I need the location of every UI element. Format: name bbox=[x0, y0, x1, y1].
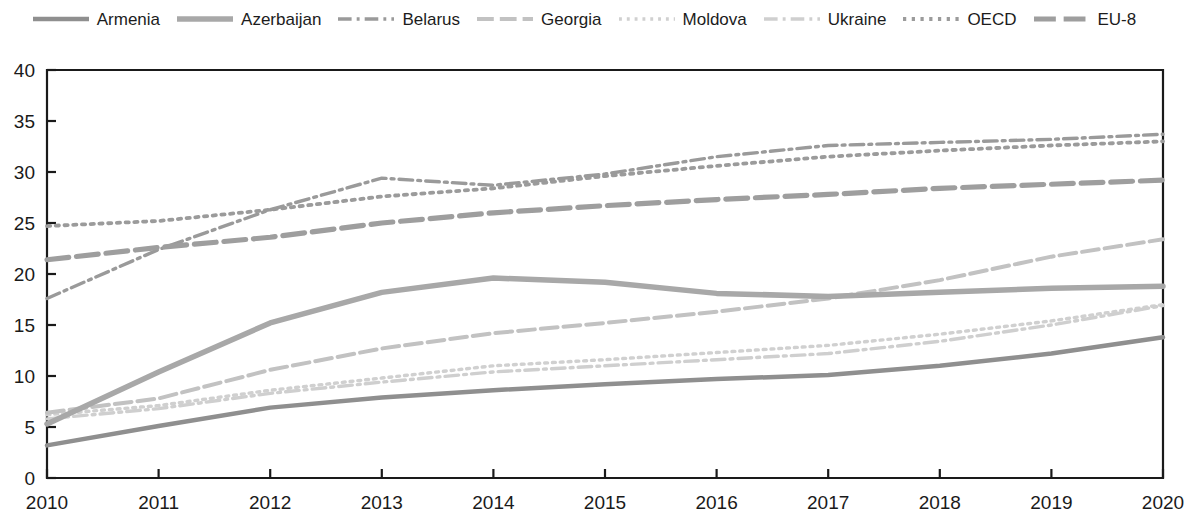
x-tick-label: 2012 bbox=[249, 492, 291, 509]
legend-swatch-icon bbox=[1033, 12, 1091, 26]
x-tick-label: 2017 bbox=[807, 492, 849, 509]
y-tick-label: 0 bbox=[24, 468, 35, 489]
legend-item-label: Moldova bbox=[683, 11, 747, 28]
legend-swatch-icon bbox=[763, 12, 821, 26]
y-tick-label: 35 bbox=[14, 111, 35, 132]
x-tick-label: 2014 bbox=[472, 492, 515, 509]
legend-item-eu-8[interactable]: EU-8 bbox=[1033, 11, 1137, 28]
x-tick-label: 2015 bbox=[584, 492, 626, 509]
legend-item-moldova[interactable]: Moldova bbox=[618, 11, 747, 28]
legend-item-belarus[interactable]: Belarus bbox=[337, 11, 460, 28]
plot-area: 0510152025303540201020112012201320142015… bbox=[0, 38, 1184, 509]
legend-swatch-icon bbox=[476, 12, 534, 26]
series-line-armenia bbox=[47, 337, 1163, 445]
legend-item-label: OECD bbox=[967, 11, 1016, 28]
legend-item-azerbaijan[interactable]: Azerbaijan bbox=[176, 11, 321, 28]
y-tick-label: 15 bbox=[14, 315, 35, 336]
y-tick-label: 40 bbox=[14, 60, 35, 81]
y-tick-label: 30 bbox=[14, 162, 35, 183]
legend-item-label: Georgia bbox=[541, 11, 601, 28]
x-tick-label: 2020 bbox=[1142, 492, 1184, 509]
legend-swatch-icon bbox=[337, 12, 395, 26]
legend-swatch-icon bbox=[32, 12, 90, 26]
series-line-eu-8 bbox=[47, 180, 1163, 260]
series-line-georgia bbox=[47, 239, 1163, 412]
legend-swatch-icon bbox=[618, 12, 676, 26]
y-tick-label: 25 bbox=[14, 213, 35, 234]
chart-legend: ArmeniaAzerbaijanBelarusGeorgiaMoldovaUk… bbox=[0, 0, 1184, 38]
x-tick-label: 2016 bbox=[695, 492, 737, 509]
legend-item-label: EU-8 bbox=[1098, 11, 1137, 28]
x-tick-label: 2010 bbox=[26, 492, 68, 509]
legend-item-label: Armenia bbox=[97, 11, 160, 28]
legend-item-label: Ukraine bbox=[828, 11, 887, 28]
legend-item-ukraine[interactable]: Ukraine bbox=[763, 11, 887, 28]
line-chart: ArmeniaAzerbaijanBelarusGeorgiaMoldovaUk… bbox=[0, 0, 1184, 509]
series-line-ukraine bbox=[47, 306, 1163, 419]
legend-swatch-icon bbox=[176, 12, 234, 26]
y-tick-label: 5 bbox=[24, 417, 35, 438]
y-tick-label: 20 bbox=[14, 264, 35, 285]
y-tick-label: 10 bbox=[14, 366, 35, 387]
legend-item-armenia[interactable]: Armenia bbox=[32, 11, 160, 28]
legend-item-label: Azerbaijan bbox=[241, 11, 321, 28]
legend-item-oecd[interactable]: OECD bbox=[902, 11, 1016, 28]
legend-item-georgia[interactable]: Georgia bbox=[476, 11, 601, 28]
x-tick-label: 2013 bbox=[361, 492, 403, 509]
x-tick-label: 2019 bbox=[1030, 492, 1072, 509]
legend-swatch-icon bbox=[902, 12, 960, 26]
x-tick-label: 2011 bbox=[138, 492, 179, 509]
plot-svg: 0510152025303540201020112012201320142015… bbox=[0, 38, 1184, 509]
x-tick-label: 2018 bbox=[919, 492, 961, 509]
legend-item-label: Belarus bbox=[402, 11, 460, 28]
